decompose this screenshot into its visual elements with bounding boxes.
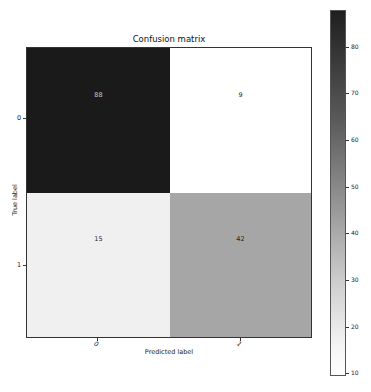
colorbar-tick-50: 50 (351, 183, 359, 190)
colorbar-tick-mark (346, 373, 349, 374)
cell-value: 88 (94, 91, 102, 99)
cell-true0-pred1: 9 (170, 48, 311, 193)
colorbar-tick-mark (346, 140, 349, 141)
colorbar-tick-mark (346, 280, 349, 281)
colorbar-tick-10: 10 (351, 369, 359, 376)
cell-value: 15 (94, 235, 102, 243)
colorbar-tick-mark (346, 327, 349, 328)
cell-true0-pred0: 88 (27, 48, 170, 193)
colorbar-tick-40: 40 (351, 229, 359, 236)
cell-value: 9 (238, 91, 242, 99)
colorbar-tick-mark (346, 47, 349, 48)
colorbar-tick-mark (346, 93, 349, 94)
y-tick-label-1: 1 (17, 261, 21, 269)
colorbar-tick-60: 60 (351, 136, 359, 143)
colorbar-tick-70: 70 (351, 89, 359, 96)
y-tick-mark (23, 265, 26, 266)
cell-value: 42 (236, 235, 244, 243)
colorbar-tick-mark (346, 187, 349, 188)
x-axis-label: Predicted label (26, 348, 312, 356)
x-tick-label-1: 1 (235, 340, 244, 349)
chart-title: Confusion matrix (26, 34, 312, 44)
y-tick-mark (23, 118, 26, 119)
colorbar-tick-mark (346, 233, 349, 234)
confusion-matrix-plot: 88 9 15 42 (26, 47, 312, 338)
colorbar-tick-20: 20 (351, 323, 359, 330)
colorbar-tick-80: 80 (351, 43, 359, 50)
cell-true1-pred0: 15 (27, 193, 170, 337)
x-tick-label-0: 0 (92, 340, 101, 349)
colorbar (330, 10, 346, 376)
y-axis-label: True label (11, 175, 19, 225)
colorbar-tick-30: 30 (351, 276, 359, 283)
y-tick-label-0: 0 (17, 114, 21, 122)
cell-true1-pred1: 42 (170, 193, 311, 337)
